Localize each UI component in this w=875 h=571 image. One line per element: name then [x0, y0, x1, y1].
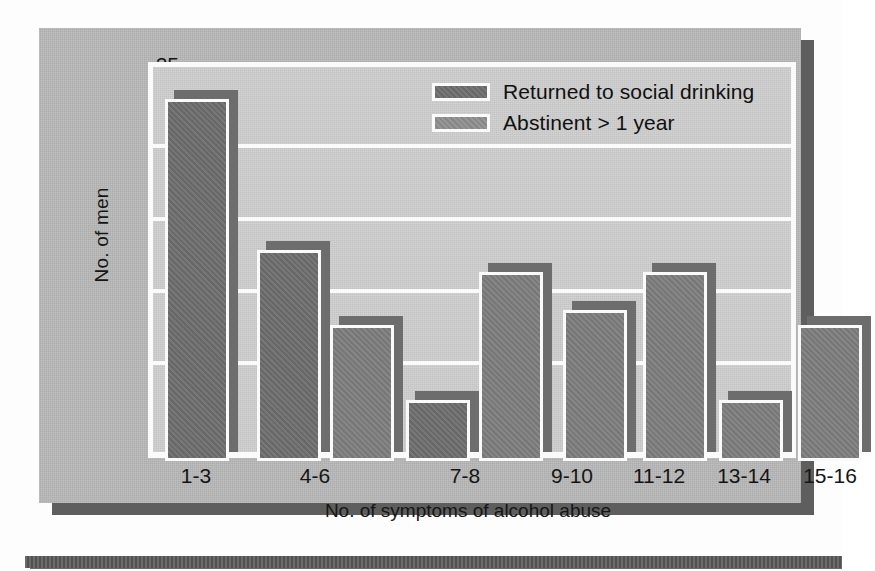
bar-face [798, 325, 862, 461]
x-axis-tick-labels: 1-3 4-6 7-8 9-10 11-12 13-14 15-16 [148, 465, 788, 493]
legend-swatch-icon-returned [432, 83, 490, 101]
x-tick-15-16: 15-16 [785, 465, 875, 486]
bar-face [406, 400, 470, 461]
legend-label-returned: Returned to social drinking [503, 80, 754, 104]
bar-face [719, 400, 783, 461]
x-tick-4-6: 4-6 [280, 465, 350, 486]
bar-face [479, 272, 543, 461]
bar-11-12-abstinent[interactable] [643, 263, 707, 452]
bar-face [643, 272, 707, 461]
bar-9-10-abstinent[interactable] [563, 301, 627, 452]
bar-face [563, 310, 627, 461]
x-tick-11-12: 11-12 [614, 465, 704, 486]
bar-face [330, 325, 394, 461]
plot-area: Returned to social drinking Abstinent > … [148, 62, 796, 458]
bar-7-8-abstinent[interactable] [479, 263, 543, 452]
bar-7-8-returned[interactable] [406, 391, 470, 452]
bar-15-16-abstinent[interactable] [798, 316, 862, 452]
x-tick-7-8: 7-8 [430, 465, 500, 486]
legend-item-abstinent[interactable]: Abstinent > 1 year [432, 109, 754, 137]
x-tick-1-3: 1-3 [161, 465, 231, 486]
bar-face [257, 250, 321, 461]
x-tick-9-10: 9-10 [532, 465, 612, 486]
bar-4-6-returned[interactable] [257, 241, 321, 452]
legend-item-returned[interactable]: Returned to social drinking [432, 78, 754, 106]
legend-swatch-icon-abstinent [432, 114, 490, 132]
bar-4-6-abstinent[interactable] [330, 316, 394, 452]
bar-13-14-abstinent[interactable] [719, 391, 783, 452]
chart-panel: No. of men 25 20 15 10 5 0 [39, 28, 801, 503]
bar-face [165, 99, 229, 461]
x-tick-13-14: 13-14 [699, 465, 789, 486]
bar-1-3-returned[interactable] [165, 90, 229, 452]
legend-label-abstinent: Abstinent > 1 year [503, 111, 675, 135]
x-axis-title: No. of symptoms of alcohol abuse [148, 500, 788, 522]
bottom-divider-rule [25, 556, 842, 568]
chart-legend: Returned to social drinking Abstinent > … [432, 78, 754, 140]
y-axis-title: No. of men [91, 165, 113, 305]
